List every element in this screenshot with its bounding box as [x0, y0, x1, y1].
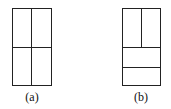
figure-b-label: (b) [121, 90, 161, 105]
figure-b-vertical-divider [141, 8, 142, 47]
figure-a-horizontal-divider [12, 47, 52, 48]
figure-b-horizontal-divider-1 [122, 47, 161, 48]
figure-a-label: (a) [12, 90, 52, 105]
figure-b-horizontal-divider-2 [122, 67, 161, 68]
